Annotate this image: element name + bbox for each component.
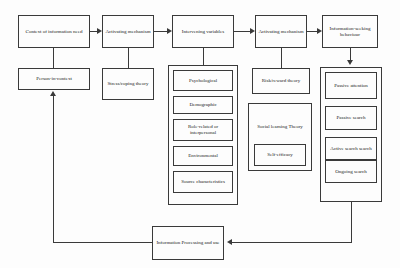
node-activating-mechanism-1: Activating mechanism: [102, 15, 154, 48]
diagram-canvas: Context of information need Activating m…: [0, 0, 400, 268]
node-label: Environmental: [175, 153, 231, 159]
node-active-search: Active search search: [325, 137, 377, 160]
node-psychological: Psychological: [173, 70, 233, 91]
connector-activating1-to-stress: [128, 48, 129, 68]
node-person-in-context: Person-in-context: [18, 68, 90, 90]
node-stress-coping-theory: Stress/coping theory: [102, 68, 154, 100]
node-label: Demographic: [175, 102, 231, 108]
node-label: Passive attention: [327, 83, 375, 89]
node-label: Person-in-context: [20, 76, 88, 82]
connector-behaviour-to-processing: [232, 242, 352, 243]
connector-context-to-person: [53, 48, 54, 68]
connector-activating2-to-behaviour: [307, 31, 317, 32]
node-ongoing-search: Ongoing search: [325, 160, 377, 183]
node-label: Activating mechanism: [257, 29, 305, 35]
connector-context-to-activating1: [90, 31, 97, 32]
node-risk-reward-theory: Risk/reward theory: [252, 68, 310, 94]
node-source-characteristics: Source characteristics: [173, 171, 233, 193]
connector-activating1-to-intervening: [154, 31, 167, 32]
node-label: Source characteristics: [175, 179, 231, 185]
arrowhead-left-icon: [227, 239, 232, 245]
node-label: Information-seeking behaviour: [324, 26, 376, 37]
node-information-seeking-behaviour: Information-seeking behaviour: [322, 15, 378, 48]
connector-behaviour-down: [351, 202, 352, 243]
arrowhead-up-icon: [50, 91, 56, 96]
node-passive-search: Passive search: [325, 106, 377, 130]
node-label: Psychological: [175, 78, 231, 84]
node-label: Risk/reward theory: [254, 78, 308, 84]
node-label: Stress/coping theory: [104, 81, 152, 87]
node-label: Information Processing and use: [154, 240, 222, 246]
node-self-efficacy: Self-efficacy: [254, 144, 306, 166]
node-label: Role-related or interpersonal: [175, 124, 231, 135]
node-label: Active search search: [327, 146, 375, 152]
label-social-learning-theory: Social learning Theory: [248, 124, 312, 130]
node-passive-attention: Passive attention: [325, 72, 377, 99]
node-label: Intervening variables: [174, 29, 232, 35]
node-demographic: Demographic: [173, 96, 233, 114]
node-role-related-or-interpersonal: Role-related or interpersonal: [173, 119, 233, 141]
node-context-of-information-need: Context of information need: [18, 15, 90, 48]
connector-intervening-to-variables: [203, 48, 204, 65]
arrowhead-right-icon: [97, 28, 102, 34]
node-label: Passive search: [327, 115, 375, 121]
node-intervening-variables: Intervening variables: [172, 15, 234, 48]
node-label: Context of information need: [20, 29, 88, 35]
connector-left-up-to-person: [53, 96, 54, 243]
connector-activating2-to-risk: [281, 48, 282, 68]
node-label: Ongoing search: [327, 169, 375, 175]
node-label: Activating mechanism: [104, 29, 152, 35]
node-label: Self-efficacy: [256, 152, 304, 158]
connector-processing-to-left: [53, 242, 152, 243]
arrowhead-right-icon: [250, 28, 255, 34]
node-information-processing-and-use: Information Processing and use: [152, 226, 224, 260]
arrowhead-right-icon: [317, 28, 322, 34]
node-activating-mechanism-2: Activating mechanism: [255, 15, 307, 48]
arrowhead-down-icon: [347, 60, 353, 65]
connector-intervening-to-activating2: [234, 31, 250, 32]
group-label-text: Social learning Theory: [257, 124, 303, 129]
node-environmental: Environmental: [173, 146, 233, 166]
arrowhead-right-icon: [167, 28, 172, 34]
